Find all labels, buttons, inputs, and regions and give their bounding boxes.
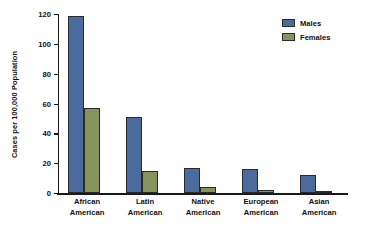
x-axis-line: [57, 193, 348, 195]
y-axis-title-text: Cases per 100,000 Population: [11, 50, 20, 157]
bar-males-european-american: [242, 169, 258, 193]
category-label-line1: European: [243, 197, 278, 206]
category-label-line2: American: [279, 208, 359, 219]
bar-males-latin-american: [126, 117, 142, 193]
y-tick-mark: [54, 104, 59, 105]
legend-label: Males: [300, 19, 321, 28]
y-tick-label: 120: [38, 10, 51, 19]
chart-legend: MalesFemales: [282, 17, 330, 45]
category-label: AsianAmerican: [279, 197, 359, 218]
y-axis-line: [58, 14, 59, 193]
y-tick-mark: [54, 74, 59, 75]
bar-females-european-american: [258, 190, 274, 193]
bar-females-asian-american: [316, 191, 332, 193]
y-axis-title: Cases per 100,000 Population: [8, 14, 22, 194]
bar-chart: Cases per 100,000 Population 02040608010…: [0, 0, 371, 237]
category-label-line1: Native: [192, 197, 215, 206]
y-tick-label: 60: [43, 99, 51, 108]
category-label-line1: Latin: [136, 197, 154, 206]
bar-males-native-american: [184, 168, 200, 193]
y-tick-label: 40: [43, 129, 51, 138]
bar-males-asian-american: [300, 175, 316, 193]
category-label-line1: African: [74, 197, 100, 206]
y-tick-label: 100: [38, 39, 51, 48]
bar-females-latin-american: [142, 171, 158, 193]
category-label-line1: Asian: [309, 197, 330, 206]
y-tick-mark: [54, 163, 59, 164]
legend-swatch-males: [282, 19, 295, 28]
legend-item-males[interactable]: Males: [282, 17, 330, 29]
legend-label: Females: [300, 33, 330, 42]
bar-males-african-american: [68, 16, 84, 194]
bar-females-native-american: [200, 187, 216, 193]
legend-item-females[interactable]: Females: [282, 31, 330, 43]
bar-females-african-american: [84, 108, 100, 193]
y-tick-mark: [54, 193, 59, 194]
y-tick-mark: [54, 133, 59, 134]
y-tick-mark: [54, 44, 59, 45]
legend-swatch-females: [282, 33, 295, 42]
y-tick-label: 80: [43, 69, 51, 78]
y-tick-mark: [54, 14, 59, 15]
y-tick-label: 20: [43, 159, 51, 168]
